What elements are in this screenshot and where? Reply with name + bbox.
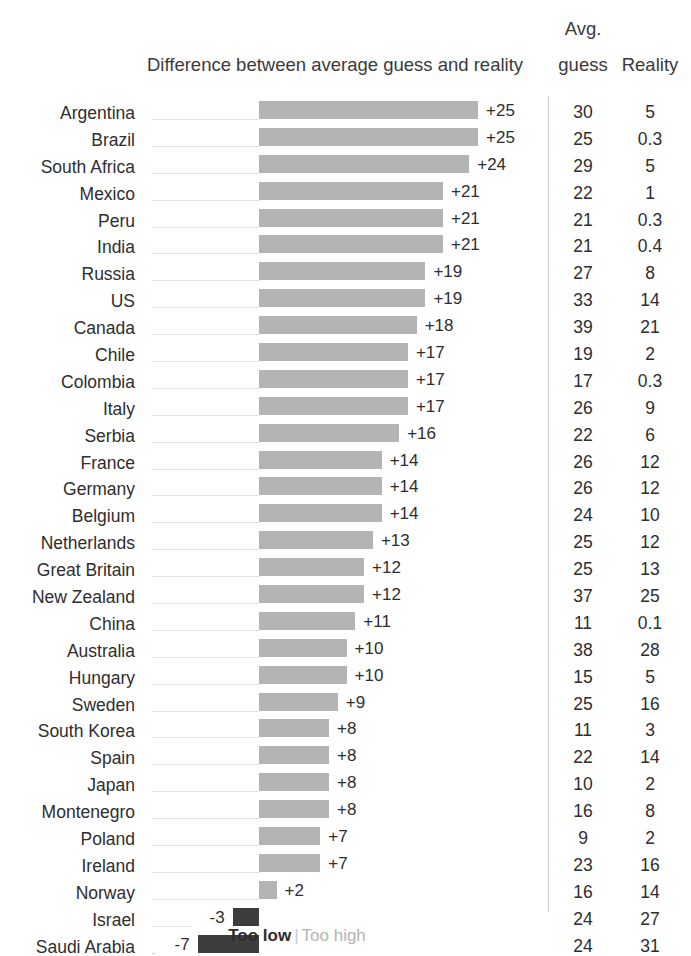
- cell-avg-guess: 29: [552, 156, 614, 176]
- cell-reality: 0.3: [613, 129, 687, 149]
- bar: [259, 343, 408, 361]
- table-row: Belgium+142410: [0, 503, 691, 530]
- bar-value-label: +18: [425, 317, 454, 335]
- bar-value-label: +14: [390, 478, 419, 496]
- row-country-label: Sweden: [0, 695, 135, 715]
- cell-avg-guess: 22: [552, 425, 614, 445]
- cell-reality: 14: [613, 747, 687, 767]
- table-row: South Korea+8113: [0, 718, 691, 745]
- cell-reality: 0.1: [613, 613, 687, 633]
- table-row: Serbia+16226: [0, 423, 691, 450]
- bar: [259, 370, 408, 388]
- cell-avg-guess: 24: [552, 936, 614, 956]
- cell-reality: 10: [613, 505, 687, 525]
- leader-line: [152, 576, 259, 577]
- cell-reality: 6: [613, 425, 687, 445]
- table-row: Netherlands+132512: [0, 530, 691, 557]
- row-country-label: US: [0, 291, 135, 311]
- table-row: China+11110.1: [0, 611, 691, 638]
- row-country-label: Great Britain: [0, 560, 135, 580]
- table-row: Chile+17192: [0, 342, 691, 369]
- bar: [259, 128, 478, 146]
- column-header-avg-guess: guess: [552, 54, 614, 76]
- cell-reality: 5: [613, 667, 687, 687]
- bar: [259, 182, 443, 200]
- row-country-label: New Zealand: [0, 587, 135, 607]
- chart-root: Difference between average guess and rea…: [0, 0, 691, 956]
- bar-value-label: +17: [416, 398, 445, 416]
- cell-reality: 3: [613, 720, 687, 740]
- bar: [259, 209, 443, 227]
- bar: [259, 558, 364, 576]
- bar-value-label: +2: [285, 882, 304, 900]
- bar-value-label: +25: [486, 102, 515, 120]
- row-country-label: South Korea: [0, 721, 135, 741]
- cell-avg-guess: 25: [552, 129, 614, 149]
- cell-avg-guess: 17: [552, 371, 614, 391]
- bar: [259, 639, 347, 657]
- cell-reality: 21: [613, 317, 687, 337]
- leader-line: [152, 146, 259, 147]
- table-row: Montenegro+8168: [0, 799, 691, 826]
- leader-line: [152, 603, 259, 604]
- cell-reality: 0.3: [613, 371, 687, 391]
- bar: [259, 746, 329, 764]
- row-country-label: Australia: [0, 641, 135, 661]
- bar-value-label: +8: [337, 747, 356, 765]
- legend-too-low: Too low: [228, 926, 291, 945]
- row-country-label: Ireland: [0, 856, 135, 876]
- leader-line: [152, 522, 259, 523]
- row-country-label: Russia: [0, 264, 135, 284]
- bar-value-label: +24: [477, 156, 506, 174]
- row-country-label: South Africa: [0, 157, 135, 177]
- bar: [259, 827, 320, 845]
- leader-line: [152, 307, 259, 308]
- cell-avg-guess: 21: [552, 236, 614, 256]
- page-title: Difference between average guess and rea…: [147, 54, 533, 76]
- row-country-label: Italy: [0, 399, 135, 419]
- leader-line: [152, 737, 259, 738]
- leader-line: [152, 227, 259, 228]
- table-row: Ireland+72316: [0, 853, 691, 880]
- table-row: Sweden+92516: [0, 692, 691, 719]
- row-country-label: Germany: [0, 479, 135, 499]
- leader-line: [152, 791, 259, 792]
- row-country-label: Canada: [0, 318, 135, 338]
- table-row: Great Britain+122513: [0, 557, 691, 584]
- bar: [259, 504, 382, 522]
- cell-reality: 28: [613, 640, 687, 660]
- cell-avg-guess: 33: [552, 290, 614, 310]
- row-country-label: France: [0, 453, 135, 473]
- cell-reality: 13: [613, 559, 687, 579]
- table-row: Germany+142612: [0, 476, 691, 503]
- bar: [259, 693, 338, 711]
- bar: [259, 585, 364, 603]
- leader-line: [152, 119, 259, 120]
- leader-line: [152, 361, 259, 362]
- bar: [259, 316, 417, 334]
- table-row: Argentina+25305: [0, 100, 691, 127]
- leader-line: [152, 711, 259, 712]
- bar-value-label: +25: [486, 129, 515, 147]
- cell-reality: 8: [613, 263, 687, 283]
- bar: [259, 477, 382, 495]
- bar: [259, 424, 399, 442]
- bar: [259, 101, 478, 119]
- cell-avg-guess: 22: [552, 747, 614, 767]
- bar-value-label: +17: [416, 371, 445, 389]
- row-country-label: Peru: [0, 211, 135, 231]
- leader-line: [152, 388, 259, 389]
- bar-value-label: +7: [328, 855, 347, 873]
- bar-value-label: +21: [451, 236, 480, 254]
- row-country-label: Serbia: [0, 426, 135, 446]
- bar: [259, 666, 347, 684]
- bar: [259, 881, 277, 899]
- bar-value-label: +12: [372, 586, 401, 604]
- cell-reality: 27: [613, 909, 687, 929]
- bar: [259, 451, 382, 469]
- cell-avg-guess: 38: [552, 640, 614, 660]
- bar-value-label: +8: [337, 801, 356, 819]
- cell-reality: 12: [613, 532, 687, 552]
- row-country-label: Chile: [0, 345, 135, 365]
- cell-avg-guess: 25: [552, 694, 614, 714]
